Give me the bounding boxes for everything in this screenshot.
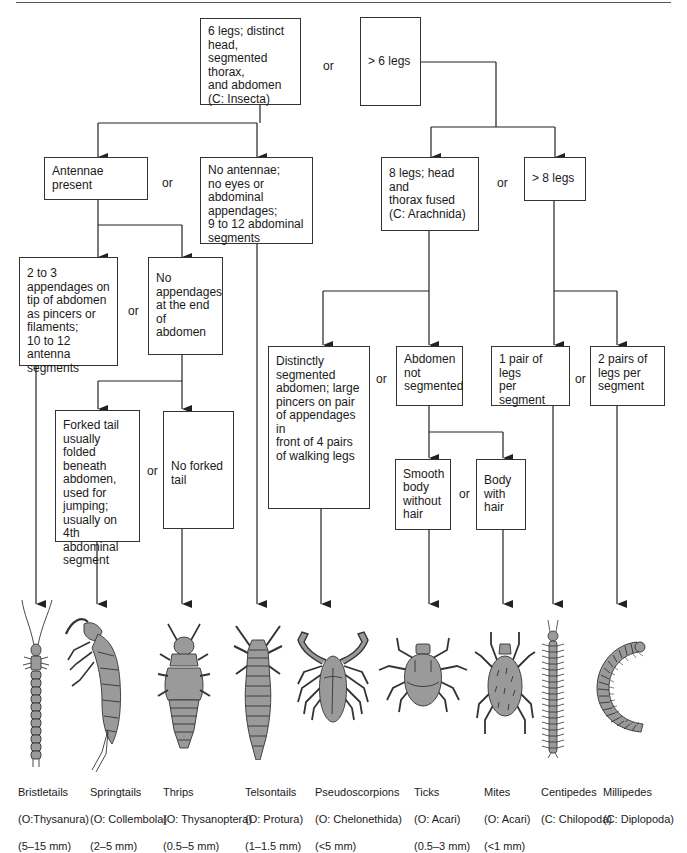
organism-taxon: (O: Acari) <box>414 813 460 825</box>
or-label: or <box>459 487 470 501</box>
mite-illustration <box>473 630 537 740</box>
label-centipedes: Centipedes (C: Chilopoda) <box>541 772 612 826</box>
organism-taxon: (O:Thysanura) <box>18 813 89 825</box>
organism-name: Mites <box>484 786 510 798</box>
or-label: or <box>575 372 586 386</box>
organism-taxon: (O: Collembola) <box>90 813 167 825</box>
label-telsontails: Telsontails (O: Protura) (1–1.5 mm) <box>245 772 303 853</box>
thrips-illustration <box>154 620 214 755</box>
label-springtails: Springtails (O: Collembola) (2–5 mm) <box>90 772 167 853</box>
or-label: or <box>323 59 334 73</box>
organism-name: Pseudoscorpions <box>315 786 399 798</box>
box-more-than-8-legs: > 8 legs <box>524 157 586 201</box>
label-ticks: Ticks (O: Acari) (0.5–3 mm) <box>414 772 470 853</box>
label-mites: Mites (O: Acari) (<1 mm) <box>484 772 530 853</box>
bristletail-illustration <box>18 595 58 770</box>
label-pseudoscorpions: Pseudoscorpions (O: Chelonethida) (<5 mm… <box>315 772 402 853</box>
organism-size: (2–5 mm) <box>90 840 137 852</box>
organism-taxon: (O: Acari) <box>484 813 530 825</box>
box-forked-tail: Forked tail usually folded beneath abdom… <box>55 410 140 542</box>
organism-size: (0.5–3 mm) <box>414 840 470 852</box>
box-segmented-abdomen: Distinctly segmented abdomen; large pinc… <box>268 346 370 509</box>
box-no-appendages: No appendages at the end of abdomen <box>148 257 223 355</box>
organism-name: Thrips <box>163 786 194 798</box>
organism-size: (1–1.5 mm) <box>245 840 301 852</box>
telsontail-illustration <box>228 620 288 760</box>
organism-name: Springtails <box>90 786 141 798</box>
organism-name: Millipedes <box>603 786 652 798</box>
box-more-than-6-legs: > 6 legs <box>360 17 421 106</box>
organism-name: Ticks <box>414 786 439 798</box>
pseudoscorpion-illustration <box>292 628 374 728</box>
organism-taxon: (O: Protura) <box>245 813 303 825</box>
box-abdomen-not-segmented: Abdomen not segmented <box>396 346 463 406</box>
box-two-pairs-legs: 2 pairs of legs per segment <box>590 346 665 406</box>
label-thrips: Thrips (O: Thysanoptera) (0.5–5 mm) <box>163 772 252 853</box>
organism-taxon: (C: Chilopoda) <box>541 813 612 825</box>
millipede-illustration <box>595 636 655 736</box>
box-no-antennae: No antennae; no eyes or abdominal append… <box>200 157 313 244</box>
organism-name: Telsontails <box>245 786 296 798</box>
organism-taxon: (O: Thysanoptera) <box>163 813 252 825</box>
box-insecta: 6 legs; distinct head, segmented thorax,… <box>200 18 301 105</box>
or-label: or <box>147 464 158 478</box>
label-bristletails: Bristletails (O:Thysanura) (5–15 mm) <box>18 772 89 853</box>
box-arachnida: 8 legs; head and thorax fused (C: Arachn… <box>381 157 479 231</box>
organism-taxon: (C: Diplopoda) <box>603 813 674 825</box>
organism-size: (<1 mm) <box>484 840 525 852</box>
box-body-with-hair: Body with hair <box>476 459 526 530</box>
or-label: or <box>497 176 508 190</box>
label-millipedes: Millipedes (C: Diplopoda) <box>603 772 674 826</box>
tick-illustration <box>377 636 469 718</box>
organism-name: Bristletails <box>18 786 68 798</box>
organism-name: Centipedes <box>541 786 597 798</box>
or-label: or <box>128 304 139 318</box>
springtail-illustration <box>62 612 132 772</box>
box-one-pair-legs: 1 pair of legs per segment <box>491 346 570 406</box>
box-appendages-tip: 2 to 3 appendages on tip of abdomen as p… <box>19 257 118 366</box>
organism-taxon: (O: Chelonethida) <box>315 813 402 825</box>
centipede-illustration <box>538 620 568 760</box>
organism-size: (5–15 mm) <box>18 840 71 852</box>
organism-size: (<5 mm) <box>315 840 356 852</box>
box-no-forked-tail: No forked tail <box>163 411 234 529</box>
organism-size: (0.5–5 mm) <box>163 840 219 852</box>
box-smooth-body: Smooth body without hair <box>395 459 451 530</box>
box-antennae-present: Antennae present <box>44 157 148 200</box>
page-top-rule <box>16 2 671 3</box>
or-label: or <box>376 372 387 386</box>
or-label: or <box>162 176 173 190</box>
